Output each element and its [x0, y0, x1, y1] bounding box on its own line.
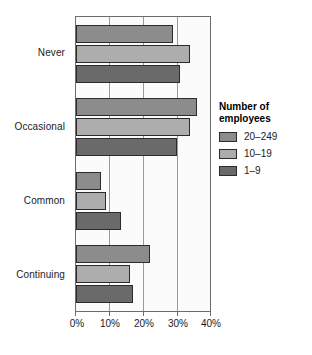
- legend-label-1-9: 1–9: [244, 165, 261, 176]
- y-axis-label-common: Common: [0, 195, 65, 206]
- legend-label-20-249: 20–249: [244, 131, 277, 142]
- bar-never-10-19: [76, 45, 190, 63]
- legend-swatch-icon-10-19: [219, 149, 237, 159]
- y-axis-label-continuing: Continuing: [0, 269, 65, 280]
- x-axis-label-30: 30%: [168, 318, 188, 330]
- bar-occasional-10-19: [76, 118, 190, 136]
- bar-common-10-19: [76, 192, 106, 210]
- bar-continuing-20-249: [76, 245, 150, 263]
- bar-series-layer: [76, 17, 210, 311]
- legend-item-1-9[interactable]: 1–9: [219, 165, 311, 176]
- x-axis-label-10: 10%: [100, 318, 120, 330]
- legend-swatch-icon-20-249: [219, 132, 237, 142]
- x-tick-10: [109, 312, 110, 316]
- bar-chart: Never Occasional Common Continuing 0% 10…: [0, 0, 312, 355]
- y-axis-label-occasional: Occasional: [0, 121, 65, 132]
- bar-common-20-249: [76, 172, 101, 190]
- legend-item-10-19[interactable]: 10–19: [219, 148, 311, 159]
- bar-occasional-1-9: [76, 138, 177, 156]
- bar-continuing-1-9: [76, 285, 133, 303]
- x-axis-label-20: 20%: [134, 318, 154, 330]
- bar-never-1-9: [76, 65, 180, 83]
- legend-title: Number of employees: [219, 101, 311, 125]
- x-tick-20: [143, 312, 144, 316]
- x-tick-40: [210, 312, 211, 316]
- legend: Number of employees 20–249 10–19 1–9: [219, 101, 311, 176]
- legend-swatch-icon-1-9: [219, 166, 237, 176]
- x-tick-30: [177, 312, 178, 316]
- bar-continuing-10-19: [76, 265, 130, 283]
- x-axis-labels: 0% 10% 20% 30% 40%: [0, 318, 312, 334]
- plot-area: [75, 16, 211, 312]
- bar-common-1-9: [76, 212, 121, 230]
- x-axis-label-0: 0%: [70, 318, 84, 330]
- legend-title-line-2: employees: [219, 113, 311, 125]
- bar-never-20-249: [76, 25, 173, 43]
- x-axis-label-40: 40%: [201, 318, 221, 330]
- legend-item-20-249[interactable]: 20–249: [219, 131, 311, 142]
- legend-title-line-1: Number of: [219, 101, 311, 113]
- legend-label-10-19: 10–19: [244, 148, 272, 159]
- x-tick-0: [75, 312, 76, 316]
- y-axis-label-never: Never: [0, 47, 65, 58]
- bar-occasional-20-249: [76, 98, 197, 116]
- y-axis-category-labels: Never Occasional Common Continuing: [0, 16, 70, 312]
